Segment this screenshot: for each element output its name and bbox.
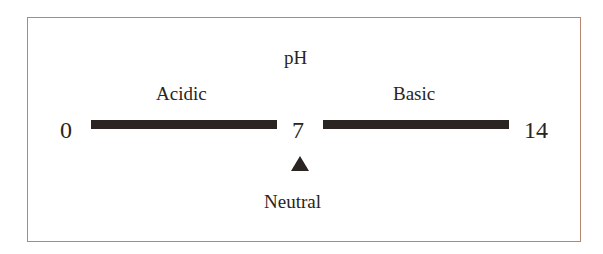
ph-title: pH bbox=[284, 48, 307, 67]
scale-min-label: 0 bbox=[60, 118, 72, 142]
basic-bar bbox=[323, 120, 509, 129]
scale-max-label: 14 bbox=[524, 118, 548, 142]
acidic-bar bbox=[91, 120, 277, 129]
acidic-label: Acidic bbox=[156, 84, 207, 103]
neutral-label: Neutral bbox=[264, 192, 321, 211]
basic-label: Basic bbox=[393, 84, 435, 103]
triangle-up-icon bbox=[291, 156, 309, 171]
scale-mid-label: 7 bbox=[292, 118, 304, 142]
